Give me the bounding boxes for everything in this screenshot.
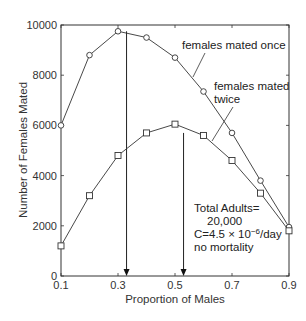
total-adults-label: Total Adults= [194, 202, 260, 214]
c-rate: C=4.5 × 10−6/day [194, 227, 282, 240]
square-marker-icon [229, 158, 235, 164]
circle-marker-icon [144, 35, 150, 41]
x-tick-label: 0.9 [281, 279, 296, 291]
total-adults-value: 20,000 [207, 215, 242, 227]
square-marker-icon [201, 132, 207, 138]
optimum-arrows [124, 31, 187, 276]
x-tick-label: 0.1 [53, 279, 68, 291]
label-females-mated-twice-line1: females mated [214, 80, 289, 92]
circle-marker-icon [172, 55, 178, 61]
circle-marker-icon [87, 52, 93, 58]
y-tick-label: 6000 [33, 119, 57, 131]
data-series [58, 28, 292, 248]
square-marker-icon [172, 121, 178, 127]
line-chart: 0200040006000800010000 0.10.30.50.70.9 f… [0, 0, 306, 321]
y-tick-label: 10000 [26, 19, 57, 31]
x-axis-title: Proportion of Males [125, 293, 225, 305]
circle-marker-icon [201, 89, 207, 95]
square-marker-icon [87, 193, 93, 199]
no-mortality: no mortality [194, 241, 254, 253]
circle-marker-icon [115, 28, 121, 34]
label-females-mated-once: females mated once [182, 39, 286, 51]
circle-marker-icon [58, 123, 64, 129]
square-marker-icon [115, 153, 121, 159]
x-axis-ticks: 0.10.30.50.70.9 [53, 25, 296, 291]
conditions-annotation: Total Adults= 20,000 C=4.5 × 10−6/day no… [194, 202, 282, 253]
y-axis-title: Number of Females Mated [17, 82, 29, 218]
pointer-line-once [193, 53, 205, 77]
label-females-mated-twice-line2: twice [214, 93, 240, 105]
square-marker-icon [58, 243, 64, 249]
x-tick-label: 0.5 [167, 279, 182, 291]
y-tick-label: 2000 [33, 220, 57, 232]
square-marker-icon [286, 228, 292, 234]
series-label-twice: females mated twice [212, 80, 289, 141]
arrow-head-icon [124, 269, 130, 276]
circle-marker-icon [258, 178, 264, 184]
plot-frame [61, 25, 289, 276]
x-tick-label: 0.3 [110, 279, 125, 291]
x-tick-label: 0.7 [224, 279, 239, 291]
y-tick-label: 8000 [33, 69, 57, 81]
y-tick-label: 4000 [33, 170, 57, 182]
circle-marker-icon [229, 130, 235, 136]
arrow-head-icon [181, 269, 187, 276]
series-label-once: females mated once [182, 39, 286, 77]
square-marker-icon [144, 130, 150, 136]
pointer-line-twice [212, 107, 233, 141]
square-marker-icon [258, 190, 264, 196]
